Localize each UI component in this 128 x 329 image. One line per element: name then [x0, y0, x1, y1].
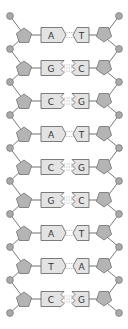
sugar-right: [96, 94, 111, 109]
base-label-left: T: [47, 262, 54, 272]
base-pair: TA: [16, 259, 111, 274]
sugar-left: [16, 259, 31, 274]
base-label-right: A: [78, 262, 85, 272]
base-pair: GC: [16, 193, 111, 208]
phosphate-right: [116, 13, 123, 20]
base-label-right: T: [78, 229, 85, 239]
base-label-left: C: [48, 295, 54, 305]
sugar-right: [96, 127, 111, 142]
sugar-left: [16, 226, 31, 241]
sugar-left: [16, 193, 31, 208]
base-pair: CG: [16, 160, 111, 175]
phosphate-left: [7, 310, 14, 317]
phosphate-left: [7, 46, 14, 53]
sugar-right: [96, 226, 111, 241]
dna-diagram: ATGCCGATCGGCATTACG: [0, 0, 128, 329]
base-pair: GC: [16, 61, 111, 76]
phosphate-right: [116, 310, 123, 317]
phosphate-right: [116, 112, 123, 119]
base-pairs: ATGCCGATCGGCATTACG: [16, 28, 111, 307]
base-label-right: G: [78, 295, 85, 305]
phosphate-right: [116, 145, 123, 152]
sugar-left: [16, 160, 31, 175]
sugar-left: [16, 127, 31, 142]
base-label-left: A: [48, 31, 55, 41]
base-pair: CG: [16, 94, 111, 109]
sugar-left: [16, 61, 31, 76]
base-label-right: G: [78, 163, 85, 173]
base-pair: AT: [16, 28, 111, 43]
phosphate-left: [7, 13, 14, 20]
sugar-right: [96, 259, 111, 274]
base-pair: CG: [16, 292, 111, 307]
phosphate-left: [7, 178, 14, 185]
phosphate-left: [7, 79, 14, 86]
base-label-right: G: [78, 97, 85, 107]
sugar-right: [96, 193, 111, 208]
phosphate-left: [7, 277, 14, 284]
sugar-right: [96, 28, 111, 43]
base-label-right: T: [78, 31, 85, 41]
base-pair: AT: [16, 127, 111, 142]
phosphate-right: [116, 79, 123, 86]
phosphate-left: [7, 211, 14, 218]
base-label-right: C: [78, 64, 84, 74]
phosphate-left: [7, 112, 14, 119]
base-label-left: G: [48, 196, 55, 206]
sugar-right: [96, 160, 111, 175]
base-label-left: G: [48, 64, 55, 74]
phosphate-right: [116, 277, 123, 284]
sugar-left: [16, 28, 31, 43]
base-label-left: C: [48, 97, 54, 107]
base-label-left: A: [48, 130, 55, 140]
sugar-left: [16, 292, 31, 307]
base-label-right: C: [78, 196, 84, 206]
phosphate-right: [116, 244, 123, 251]
base-label-left: A: [48, 229, 55, 239]
base-label-left: C: [48, 163, 54, 173]
sugar-right: [96, 61, 111, 76]
base-label-right: T: [78, 130, 85, 140]
phosphate-right: [116, 211, 123, 218]
base-pair: AT: [16, 226, 111, 241]
sugar-left: [16, 94, 31, 109]
phosphate-left: [7, 145, 14, 152]
phosphate-right: [116, 178, 123, 185]
phosphate-right: [116, 46, 123, 53]
phosphate-left: [7, 244, 14, 251]
sugar-right: [96, 292, 111, 307]
